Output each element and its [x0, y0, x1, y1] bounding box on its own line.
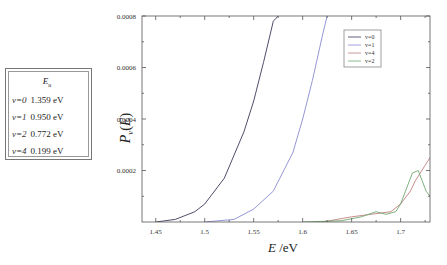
- legend-box: [344, 30, 381, 67]
- legend-label: v=4: [365, 50, 374, 56]
- series-line-v1: [205, 16, 327, 222]
- x-axis-title: E /eV: [267, 240, 299, 255]
- x-tick-label: 1.6: [298, 228, 307, 236]
- legend-label: v=2: [365, 58, 374, 64]
- axes: 1.451.51.551.61.651.70.00020.00040.00060…: [117, 13, 430, 237]
- probability-chart: 1.451.51.551.61.651.70.00020.00040.00060…: [0, 0, 447, 265]
- legend-label: v=1: [365, 42, 374, 48]
- series-line-v2: [303, 171, 430, 223]
- legend-label: v=0: [365, 34, 374, 40]
- x-tick-label: 1.45: [150, 228, 163, 236]
- x-tick-label: 1.7: [396, 228, 405, 236]
- series-line-v4: [322, 158, 430, 222]
- series-line-v0: [156, 16, 279, 222]
- x-tick-label: 1.5: [200, 228, 209, 236]
- legend: v=0v=1v=4v=2: [344, 30, 381, 67]
- x-tick-label: 1.55: [248, 228, 261, 236]
- plot-frame: [142, 16, 430, 222]
- y-tick-label: 0.0002: [117, 167, 137, 175]
- plot-area: [156, 16, 430, 222]
- y-tick-label: 0.0008: [117, 13, 137, 21]
- y-axis-title: Pv(E): [118, 112, 135, 144]
- x-tick-label: 1.65: [346, 228, 359, 236]
- y-tick-label: 0.0006: [117, 64, 137, 72]
